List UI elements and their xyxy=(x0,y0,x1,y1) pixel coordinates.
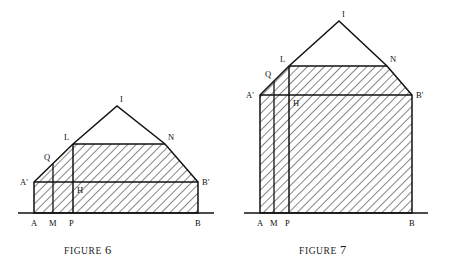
figure-6-label-B-prime: B' xyxy=(202,177,210,187)
figure-7-label-Q: Q xyxy=(265,69,271,79)
figure-7-caption-prefix: FIGURE xyxy=(299,246,337,256)
figure-7-label-H: H xyxy=(293,98,299,108)
figure-6-label-A-prime: A' xyxy=(20,177,28,187)
figure-7-label-N: N xyxy=(390,54,396,64)
figure-6-caption: FIGURE6 xyxy=(64,243,112,258)
figure-6-label-L: L xyxy=(64,132,69,142)
figure-6-label-A: A xyxy=(31,218,38,228)
figure-6-caption-number: 6 xyxy=(102,243,112,257)
figure-7-label-A: A xyxy=(257,218,264,228)
figure-6: A M P B A' B' Q L N I H xyxy=(18,94,214,228)
figure-7-caption-number: 7 xyxy=(337,243,347,257)
figure-6-label-I: I xyxy=(120,94,123,104)
figure-7-shaded-region xyxy=(260,66,412,213)
figure-6-label-N: N xyxy=(168,132,174,142)
figure-6-label-H: H xyxy=(77,185,83,195)
figure-7-label-I: I xyxy=(342,9,345,19)
figure-7-label-L: L xyxy=(280,54,285,64)
figure-6-label-M: M xyxy=(49,218,57,228)
figure-7-caption: FIGURE7 xyxy=(299,243,347,258)
figure-6-label-B: B xyxy=(195,218,201,228)
figure-7: A M P B A' B' Q L N I H xyxy=(244,9,428,228)
figure-6-label-Q: Q xyxy=(44,152,50,162)
figure-7-label-M: M xyxy=(270,218,278,228)
figure-6-label-P: P xyxy=(69,218,74,228)
figure-7-label-B-prime: B' xyxy=(416,90,424,100)
figure-7-label-B: B xyxy=(409,218,415,228)
geometry-figures-canvas: A M P B A' B' Q L N I H A M P B A' B' Q xyxy=(0,0,454,268)
figure-7-label-P: P xyxy=(285,218,290,228)
figure-6-caption-prefix: FIGURE xyxy=(64,246,102,256)
figure-7-label-A-prime: A' xyxy=(246,90,254,100)
